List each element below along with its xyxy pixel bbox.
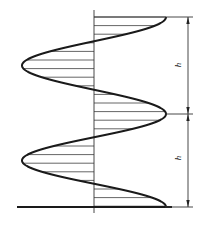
- hatch-lines: [23, 17, 166, 206]
- period-label-upper: h: [173, 62, 183, 67]
- period-label-lower: h: [173, 155, 183, 160]
- sine-profile-diagram: h h: [0, 0, 207, 239]
